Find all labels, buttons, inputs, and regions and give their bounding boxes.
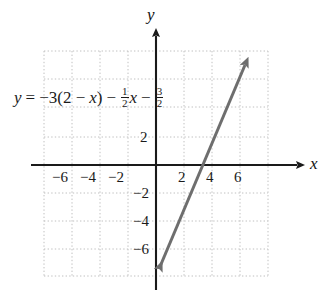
x-tick-label-neg2: −2	[108, 170, 124, 185]
equation-frac1-var: x	[130, 89, 138, 106]
x-axis-label: x	[310, 155, 318, 172]
graph-figure: y x −6 −4 −2 2 4 6 2 −2 −4 −6 y = −3(2 −…	[0, 0, 331, 294]
function-line	[159, 65, 245, 269]
equation-fraction-one-half: 1 2	[121, 86, 129, 109]
equation-fraction-three-halves: 3 2	[156, 86, 164, 109]
fraction-numerator: 3	[156, 86, 164, 97]
y-tick-label-neg6: −6	[133, 242, 149, 257]
y-tick-label-neg2: −2	[133, 186, 149, 201]
equation-term1: −3(2 −	[39, 89, 85, 106]
equation-lhs: y	[14, 89, 22, 106]
fraction-denominator: 2	[156, 97, 164, 109]
fraction-denominator: 2	[121, 97, 129, 109]
y-tick-label-neg4: −4	[133, 214, 149, 229]
coordinate-plane	[0, 0, 331, 294]
equation-term1-var: x	[89, 89, 97, 106]
equation-equals: =	[26, 89, 36, 106]
equation-minus-2: −	[141, 89, 151, 106]
equation-minus-1: −	[106, 89, 116, 106]
y-tick-label-2: 2	[140, 130, 148, 145]
fraction-numerator: 1	[121, 86, 129, 97]
y-axis-label: y	[147, 6, 155, 23]
x-tick-label-6: 6	[234, 170, 242, 185]
equation-term1-close: )	[97, 89, 103, 106]
x-tick-label-neg4: −4	[80, 170, 96, 185]
x-tick-label-2: 2	[178, 170, 186, 185]
x-tick-label-neg6: −6	[52, 170, 68, 185]
equation-annotation: y = −3(2 − x ) − 1 2 x − 3 2	[14, 86, 164, 109]
x-tick-label-4: 4	[206, 170, 214, 185]
